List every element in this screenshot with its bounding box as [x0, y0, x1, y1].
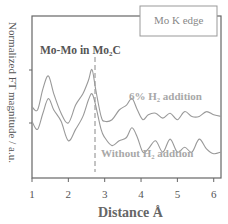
- legend-box-text: Mo K edge: [154, 14, 204, 26]
- series-without-h2-line: [32, 94, 221, 154]
- x-tick-label: 3: [102, 188, 108, 200]
- x-tick-label: 4: [138, 188, 144, 200]
- x-tick-label: 1: [29, 188, 35, 200]
- x-tick-label: 6: [211, 188, 217, 200]
- annotation-text: Mo-Mo in Mo₂C: [40, 44, 121, 56]
- x-tick-label: 5: [175, 188, 181, 200]
- annotation-mo-mo: Mo-Mo in Mo₂C: [40, 44, 121, 56]
- chart: Mo K edge Mo-Mo in Mo₂C 6% H₂ addition W…: [0, 0, 228, 224]
- x-axis-ticks: [32, 178, 214, 182]
- series-label-6pct-h2: 6% H₂ addition: [129, 90, 202, 102]
- x-tick-labels: 123456: [29, 188, 217, 200]
- x-axis-label: Distance Å: [98, 205, 164, 220]
- y-axis-label: Normalized FT magnitude / a.u.: [7, 22, 19, 163]
- series-label-without-h2: Without H₂ addtion: [101, 147, 193, 159]
- x-tick-label: 2: [66, 188, 72, 200]
